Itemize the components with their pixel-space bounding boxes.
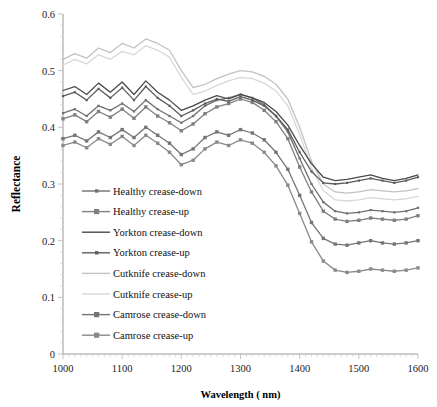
series-marker (97, 130, 100, 133)
series-marker (275, 115, 277, 117)
series-marker (262, 151, 265, 154)
series-marker (239, 128, 242, 131)
series-marker (251, 99, 253, 101)
series-marker (62, 112, 64, 114)
legend-swatch-marker (95, 189, 98, 192)
series-marker (404, 217, 407, 220)
x-tick-label: 1100 (112, 363, 133, 374)
series-marker (333, 217, 336, 220)
series-marker (85, 139, 88, 142)
series-marker (262, 138, 265, 141)
chart-canvas: 100011001200130014001500160000.10.20.30.… (0, 0, 437, 407)
series-marker (168, 115, 170, 117)
series-marker (345, 271, 348, 274)
series-marker (109, 136, 112, 139)
y-tick-label: 0.6 (42, 9, 55, 20)
series-marker (310, 183, 312, 185)
series-marker (310, 170, 312, 172)
series-marker (62, 95, 64, 97)
legend-label: Cutknife crease-down (113, 268, 206, 279)
series-marker (215, 105, 218, 108)
series-marker (168, 105, 170, 107)
series-marker (157, 97, 159, 99)
series-marker (216, 98, 218, 100)
series-marker (274, 151, 277, 154)
x-tick-label: 1000 (53, 363, 74, 374)
series-marker (109, 143, 112, 146)
series-marker (156, 142, 159, 145)
series-marker (322, 259, 325, 262)
series-marker (144, 134, 147, 137)
series-marker (310, 221, 313, 224)
series-marker (263, 105, 265, 107)
y-tick-label: 0 (50, 349, 55, 360)
series-marker (393, 270, 396, 273)
series-marker (168, 121, 171, 124)
series-marker (334, 210, 336, 212)
series-marker (405, 210, 407, 212)
series-marker (203, 136, 206, 139)
series-marker (310, 190, 313, 193)
series-marker (417, 207, 419, 209)
series-marker (416, 266, 419, 269)
series-marker (404, 241, 407, 244)
series-marker (369, 267, 372, 270)
series-marker (85, 120, 88, 123)
series-marker (144, 126, 147, 129)
series-marker (109, 97, 111, 99)
series-marker (121, 102, 123, 104)
series-marker (358, 211, 360, 213)
series-marker (381, 180, 383, 182)
series-marker (61, 117, 64, 120)
series-marker (299, 151, 301, 153)
series-marker (180, 115, 182, 117)
series-marker (74, 91, 76, 93)
series-marker (156, 114, 159, 117)
series-marker (145, 99, 147, 101)
series-marker (393, 242, 396, 245)
series-marker (215, 130, 218, 133)
series-marker (370, 177, 372, 179)
series-marker (203, 112, 206, 115)
series-marker (298, 194, 301, 197)
series-marker (381, 268, 384, 271)
series-marker (85, 146, 88, 149)
series-marker (97, 88, 99, 90)
series-marker (109, 109, 111, 111)
series-marker (145, 85, 147, 87)
series-marker (73, 140, 76, 143)
series-marker (333, 242, 336, 245)
legend-label: Healthy crease-up (113, 206, 189, 217)
series-marker (192, 115, 194, 117)
series-marker (86, 99, 88, 101)
series-marker (132, 136, 135, 139)
series-marker (334, 183, 336, 185)
y-tick-label: 0.2 (42, 236, 55, 247)
series-marker (120, 135, 123, 138)
series-marker (404, 268, 407, 271)
series-marker (369, 216, 372, 219)
series-marker (192, 109, 194, 111)
series-marker (345, 244, 348, 247)
series-marker (299, 157, 301, 159)
series-marker (144, 105, 147, 108)
series-marker (180, 153, 183, 156)
series-marker (298, 212, 301, 215)
series-marker (156, 134, 159, 137)
legend-label: Camrose crease-up (113, 330, 193, 341)
legend-swatch-marker (95, 251, 98, 254)
series-marker (417, 176, 419, 178)
legend-label: Yorkton crease-down (113, 227, 203, 238)
x-tick-label: 1200 (171, 363, 192, 374)
series-marker (73, 134, 76, 137)
series-marker (97, 105, 99, 107)
y-tick-label: 0.1 (42, 292, 55, 303)
legend-label: Healthy crease-down (113, 186, 203, 197)
series-marker (393, 182, 395, 184)
series-marker (74, 108, 76, 110)
legend-label: Cutknife crease-up (113, 289, 193, 300)
series-marker (204, 102, 206, 104)
series-marker (215, 140, 218, 143)
series-marker (322, 210, 325, 213)
legend-swatch-marker (94, 312, 99, 317)
